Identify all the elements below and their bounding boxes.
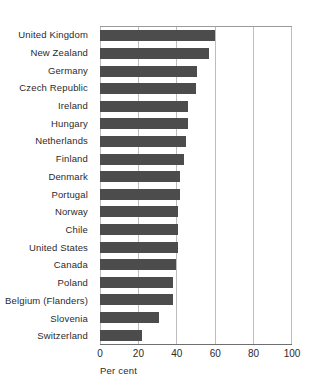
category-label: Switzerland (0, 327, 93, 345)
bar (100, 330, 142, 341)
category-label: Portugal (0, 185, 93, 203)
bar-row (100, 309, 291, 327)
x-tick-label: 0 (97, 349, 103, 359)
bar (100, 154, 184, 165)
bar (100, 206, 178, 217)
bar-row (100, 150, 291, 168)
bar-row (100, 115, 291, 133)
category-axis-labels: United KingdomNew ZealandGermanyCzech Re… (0, 26, 93, 345)
bar-row (100, 221, 291, 239)
bar (100, 66, 197, 77)
bar-row (100, 203, 291, 221)
x-tick-label: 80 (248, 349, 259, 359)
x-tick-label: 100 (284, 349, 301, 359)
category-label: Netherlands (0, 132, 93, 150)
bar (100, 312, 159, 323)
x-tick-label: 60 (210, 349, 221, 359)
bar-row (100, 133, 291, 151)
category-label: Finland (0, 150, 93, 168)
category-label: Hungary (0, 115, 93, 133)
bar-row (100, 185, 291, 203)
bar-row (100, 274, 291, 292)
category-label: Czech Republic (0, 79, 93, 97)
bar-row (100, 291, 291, 309)
bar (100, 242, 178, 253)
category-label: Slovenia (0, 310, 93, 328)
bar-chart: United KingdomNew ZealandGermanyCzech Re… (0, 0, 317, 387)
category-label: Norway (0, 203, 93, 221)
bar (100, 30, 215, 41)
category-label: Belgium (Flanders) (0, 292, 93, 310)
bar (100, 259, 176, 270)
category-label: Germany (0, 61, 93, 79)
bar (100, 118, 188, 129)
category-label: Ireland (0, 97, 93, 115)
x-tick-label: 40 (171, 349, 182, 359)
x-axis-line (100, 344, 292, 345)
bar (100, 171, 180, 182)
bar (100, 136, 186, 147)
bar-row (100, 256, 291, 274)
bar (100, 224, 178, 235)
bar-row (100, 168, 291, 186)
bar-row (100, 326, 291, 344)
x-axis-tick-labels: 020406080100 (100, 349, 292, 363)
category-label: Canada (0, 256, 93, 274)
category-label: Denmark (0, 168, 93, 186)
category-label: United Kingdom (0, 26, 93, 44)
category-label: New Zealand (0, 44, 93, 62)
category-label: Poland (0, 274, 93, 292)
bar (100, 189, 180, 200)
category-label: Chile (0, 221, 93, 239)
bar-row (100, 80, 291, 98)
plot-area (100, 26, 292, 345)
bar (100, 48, 209, 59)
bar (100, 83, 196, 94)
bar-row (100, 238, 291, 256)
bar-row (100, 27, 291, 45)
category-label: United States (0, 239, 93, 257)
bar-row (100, 45, 291, 63)
bar-row (100, 62, 291, 80)
bar (100, 101, 188, 112)
x-axis-title: Per cent (100, 366, 137, 376)
bars-container (100, 27, 291, 344)
bar-row (100, 97, 291, 115)
gridline (291, 27, 292, 344)
bar (100, 294, 173, 305)
x-tick-label: 20 (133, 349, 144, 359)
bar (100, 277, 173, 288)
